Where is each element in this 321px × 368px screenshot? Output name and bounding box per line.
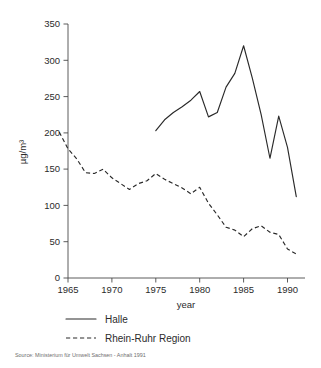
line-chart: 0 50 100 150 200 250 300 350 µg/m³ 1965 …: [0, 0, 321, 368]
y-tick-label-100: 100: [44, 200, 60, 211]
x-tick-label-1985: 1985: [233, 284, 254, 295]
x-tick-label-1990: 1990: [277, 284, 298, 295]
x-tick-label-1970: 1970: [101, 284, 122, 295]
legend-label-rhein-ruhr-region: Rhein-Ruhr Region: [105, 333, 191, 344]
y-tick-label-300: 300: [44, 55, 60, 66]
y-tick-label-0: 0: [55, 272, 60, 283]
series-line-halle: [156, 46, 296, 197]
x-tick-label-1980: 1980: [189, 284, 210, 295]
series-line-rhein-ruhr-region: [59, 132, 296, 254]
x-tick-label-1965: 1965: [57, 284, 78, 295]
y-tick-label-350: 350: [44, 18, 60, 29]
legend-label-halle: Halle: [105, 314, 128, 325]
y-tick-label-200: 200: [44, 127, 60, 138]
x-tick-marks: [68, 278, 288, 283]
source-note: Source: Ministerium für Umwelt Sachsen -…: [15, 352, 146, 358]
y-tick-label-250: 250: [44, 91, 60, 102]
y-axis-title: µg/m³: [17, 140, 28, 164]
chart-figure: 0 50 100 150 200 250 300 350 µg/m³ 1965 …: [0, 0, 321, 368]
y-tick-label-150: 150: [44, 163, 60, 174]
x-tick-label-1975: 1975: [145, 284, 166, 295]
x-axis-title: year: [177, 299, 195, 310]
chart-legend: Halle Rhein-Ruhr Region: [66, 314, 191, 344]
y-tick-marks: [64, 24, 69, 278]
y-tick-label-50: 50: [49, 236, 60, 247]
